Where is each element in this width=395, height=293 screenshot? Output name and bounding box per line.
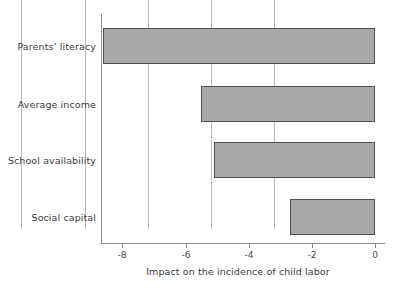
x-tick-label--4: -4 (229, 250, 269, 260)
tick-mark-0 (375, 244, 376, 248)
y-axis-category-labels: Parents’ literacy Average income School … (0, 0, 96, 293)
x-tick-label--6: -6 (166, 250, 206, 260)
x-tick-label--2: -2 (292, 250, 332, 260)
bar-chart-figure: Parents’ literacy Average income School … (0, 0, 395, 293)
category-label-social-capital: Social capital (0, 212, 96, 223)
bar-parents-literacy[interactable] (103, 28, 375, 64)
x-tick-label--8: -8 (102, 250, 142, 260)
bar-social-capital[interactable] (290, 199, 375, 235)
category-label-parents-literacy: Parents’ literacy (0, 41, 96, 52)
bar-average-income[interactable] (201, 86, 375, 122)
x-axis-line (101, 243, 385, 244)
category-label-average-income: Average income (0, 99, 96, 110)
category-label-school-availability: School availability (0, 155, 96, 166)
x-axis-title: Impact on the incidence of child labor (101, 266, 375, 277)
tick-mark--4 (249, 244, 250, 248)
bar-school-availability[interactable] (214, 142, 375, 178)
tick-mark--6 (186, 244, 187, 248)
plot-area (101, 14, 375, 243)
tick-mark--2 (312, 244, 313, 248)
tick-mark--8 (122, 244, 123, 248)
x-tick-label-0: 0 (355, 250, 395, 260)
